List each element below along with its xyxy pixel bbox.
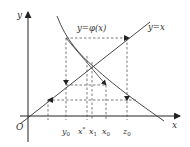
tick-z0: z0	[122, 127, 131, 137]
x-axis-label: x	[172, 120, 177, 130]
phi-curve-label: y=φ(x)	[76, 23, 106, 33]
origin-label: O	[16, 122, 24, 132]
tick-y0: y0	[61, 127, 71, 137]
identity-line	[20, 22, 150, 124]
tick-xstar: x*	[78, 126, 86, 136]
y-axis-label: y	[16, 10, 23, 20]
identity-line-label: y=x	[147, 22, 165, 32]
tick-x0: x0	[102, 127, 111, 137]
tick-x1: x1	[89, 127, 97, 137]
arrow-down-y0	[63, 80, 69, 85]
fixed-point-iteration-diagram: y x O y=φ(x) y=x y0 x* x1 x0 z0	[0, 0, 190, 147]
